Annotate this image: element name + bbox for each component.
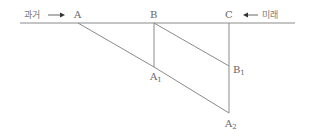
segment-b-b1 <box>154 23 229 66</box>
point-label-c: C <box>225 9 233 20</box>
diagram-canvas: 과거 미래 A B C A1 B1 A2 <box>0 0 309 138</box>
timeline-diagram: 과거 미래 A B C A1 B1 A2 <box>0 0 309 138</box>
past-arrow-icon <box>48 13 65 18</box>
future-arrow-icon <box>243 13 258 18</box>
point-label-b: B <box>150 9 157 20</box>
point-label-b1: B1 <box>233 64 245 77</box>
past-label: 과거 <box>24 10 40 20</box>
segment-a-a1 <box>78 23 154 67</box>
point-label-a2: A2 <box>224 118 237 131</box>
future-label: 미래 <box>262 10 278 20</box>
point-label-a: A <box>73 9 82 20</box>
segment-a1-a2 <box>154 67 229 113</box>
point-label-a1: A1 <box>149 71 162 84</box>
